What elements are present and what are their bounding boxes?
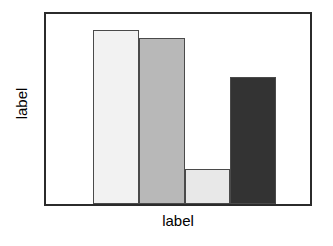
bar-chart-figure: label label	[0, 0, 333, 246]
x-axis-label: label	[44, 212, 312, 242]
bar-2	[139, 38, 185, 204]
plot-area	[46, 14, 310, 204]
bar-4	[230, 77, 276, 204]
x-axis-label-text: label	[162, 212, 194, 229]
y-axis-label-text: label	[13, 87, 30, 119]
bar-3	[185, 169, 230, 204]
bar-1	[93, 30, 138, 204]
plot-frame	[44, 12, 312, 206]
y-axis-label: label	[0, 0, 44, 206]
